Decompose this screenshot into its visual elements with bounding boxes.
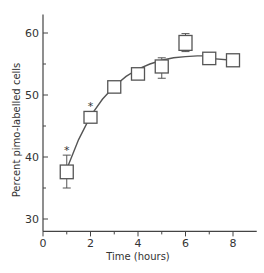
- data-point: [108, 81, 121, 93]
- axes: 3040506002468: [25, 14, 257, 250]
- data-box: [179, 35, 192, 50]
- data-box: [155, 60, 168, 73]
- x-tick-label: 2: [87, 237, 94, 250]
- x-axis-label: Time (hours): [105, 251, 170, 262]
- data-point: [227, 54, 240, 67]
- data-point: [155, 58, 168, 78]
- data-point: [132, 68, 145, 80]
- y-tick-label: 30: [25, 213, 39, 226]
- chart: 3040506002468 ** Time (hours) Percent pi…: [0, 0, 264, 273]
- x-tick-label: 8: [230, 237, 237, 250]
- data-box: [227, 54, 240, 67]
- y-tick-label: 50: [25, 89, 39, 102]
- data-point: [60, 155, 73, 188]
- data-box: [60, 165, 73, 179]
- data-box: [203, 52, 216, 64]
- data-box: [84, 111, 97, 123]
- x-tick-label: 6: [182, 237, 189, 250]
- data-point: [203, 52, 216, 64]
- significance-annotations: **: [64, 100, 94, 157]
- data-point: [84, 111, 97, 123]
- data-box: [132, 68, 145, 80]
- significance-asterisk: *: [88, 100, 94, 113]
- data-point: [179, 34, 192, 52]
- significance-asterisk: *: [64, 144, 70, 157]
- y-axis-label: Percent pimo-labelled cells: [11, 63, 22, 198]
- y-tick-label: 60: [25, 27, 39, 40]
- x-tick-label: 4: [135, 237, 142, 250]
- data-box: [108, 81, 121, 93]
- x-tick-label: 0: [40, 237, 47, 250]
- y-tick-label: 40: [25, 151, 39, 164]
